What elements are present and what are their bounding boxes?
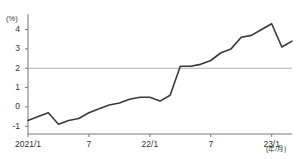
x-tick-label: 22/1 xyxy=(128,140,172,149)
y-tick-label: -1 xyxy=(6,122,20,131)
x-tick-label: 2021/1 xyxy=(6,140,50,149)
data-series-group xyxy=(28,24,292,125)
y-tick-label: 2 xyxy=(6,64,20,73)
x-axis-unit-label: (年/月) xyxy=(266,143,286,153)
axis-line-group xyxy=(28,14,292,134)
chart-container: (%) -101234 2021/1722/1723/1 (年/月) xyxy=(0,0,298,159)
y-tick-label: 4 xyxy=(6,25,20,34)
data-line-0 xyxy=(28,24,292,125)
y-tick-label: 1 xyxy=(6,83,20,92)
x-tick-label: 7 xyxy=(189,140,233,149)
y-tick-label: 3 xyxy=(6,44,20,53)
x-tick-label: 7 xyxy=(67,140,111,149)
y-tick-label: 0 xyxy=(6,102,20,111)
chart-plot-area xyxy=(0,0,298,159)
